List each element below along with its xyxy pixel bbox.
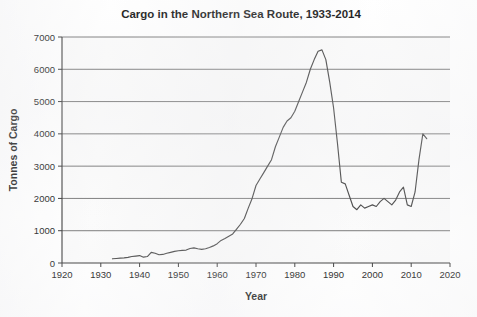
x-tick-label-1920: 1920 bbox=[51, 269, 72, 280]
x-tick-label-2020: 2020 bbox=[439, 269, 460, 280]
x-tick-label-1970: 1970 bbox=[245, 269, 266, 280]
plot-area-background bbox=[62, 37, 450, 263]
x-tick-label-1960: 1960 bbox=[207, 269, 228, 280]
chart-title: Cargo in the Northern Sea Route, 1933-20… bbox=[121, 8, 361, 20]
y-tick-label-3000: 3000 bbox=[34, 161, 55, 172]
cargo-line-chart: 01000200030004000500060007000 1920193019… bbox=[0, 0, 477, 317]
y-tick-label-1000: 1000 bbox=[34, 225, 55, 236]
x-tick-label-2000: 2000 bbox=[362, 269, 383, 280]
x-tick-label-2010: 2010 bbox=[401, 269, 422, 280]
y-tick-label-0: 0 bbox=[50, 258, 55, 269]
y-tick-label-2000: 2000 bbox=[34, 193, 55, 204]
x-axis-title: Year bbox=[245, 290, 267, 302]
y-axis-title: Tonnes of Cargo bbox=[7, 109, 19, 192]
y-tick-label-7000: 7000 bbox=[34, 32, 55, 43]
x-tick-label-1950: 1950 bbox=[168, 269, 189, 280]
x-tick-label-1940: 1940 bbox=[129, 269, 150, 280]
x-tick-label-1930: 1930 bbox=[90, 269, 111, 280]
y-tick-label-5000: 5000 bbox=[34, 96, 55, 107]
x-tick-label-1990: 1990 bbox=[323, 269, 344, 280]
x-tick-label-1980: 1980 bbox=[284, 269, 305, 280]
y-tick-label-6000: 6000 bbox=[34, 64, 55, 75]
y-tick-label-4000: 4000 bbox=[34, 128, 55, 139]
